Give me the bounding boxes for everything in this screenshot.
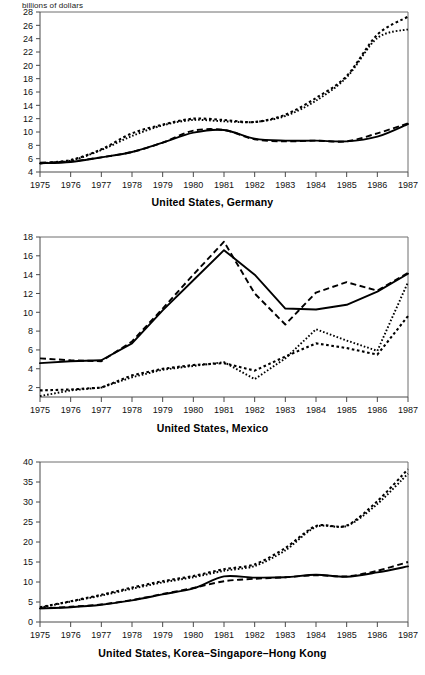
series-line-solid bbox=[40, 566, 408, 608]
y-tick-label: 8 bbox=[28, 326, 33, 336]
x-tick-label: 1983 bbox=[275, 630, 295, 640]
y-tick-label: 14 bbox=[23, 101, 33, 111]
x-tick-label: 1975 bbox=[30, 180, 50, 190]
x-tick-label: 1979 bbox=[153, 180, 173, 190]
y-tick-label: 40 bbox=[23, 457, 33, 467]
series-group bbox=[40, 242, 408, 396]
x-tick-label: 1985 bbox=[337, 630, 357, 640]
y-tick-label: 0 bbox=[28, 617, 33, 627]
y-axis: 46810121416182022242628 bbox=[23, 7, 40, 177]
chart-title-1: United States, Mexico bbox=[0, 422, 425, 434]
chart-svg-1: 2468101214161819751976197719781979198019… bbox=[0, 225, 425, 425]
series-line-dotted-fine bbox=[40, 474, 408, 608]
series-line-solid bbox=[40, 250, 408, 363]
x-tick-label: 1977 bbox=[91, 630, 111, 640]
y-tick-label: 20 bbox=[23, 61, 33, 71]
x-tick-label: 1979 bbox=[153, 405, 173, 415]
y-tick-label: 20 bbox=[23, 537, 33, 547]
x-tick-label: 1982 bbox=[245, 405, 265, 415]
y-tick-label: 15 bbox=[23, 557, 33, 567]
x-tick-label: 1981 bbox=[214, 405, 234, 415]
x-tick-label: 1986 bbox=[367, 405, 387, 415]
y-tick-label: 16 bbox=[23, 251, 33, 261]
plot-frame bbox=[40, 462, 408, 622]
y-tick-label: 4 bbox=[28, 364, 33, 374]
y-tick-label: 26 bbox=[23, 21, 33, 31]
x-tick-label: 1982 bbox=[245, 180, 265, 190]
y-tick-label: 18 bbox=[23, 74, 33, 84]
x-tick-label: 1977 bbox=[91, 405, 111, 415]
x-tick-label: 1979 bbox=[153, 630, 173, 640]
y-tick-label: 12 bbox=[23, 114, 33, 124]
x-tick-label: 1984 bbox=[306, 405, 326, 415]
series-line-dotted-coarse bbox=[40, 316, 408, 390]
chart-title-2: United States, Korea–Singapore–Hong Kong bbox=[0, 647, 425, 659]
x-tick-label: 1987 bbox=[398, 630, 418, 640]
x-tick-label: 1976 bbox=[61, 630, 81, 640]
x-tick-label: 1978 bbox=[122, 630, 142, 640]
y-tick-label: 22 bbox=[23, 47, 33, 57]
y-tick-label: 10 bbox=[23, 127, 33, 137]
x-tick-label: 1980 bbox=[183, 180, 203, 190]
y-tick-label: 25 bbox=[23, 517, 33, 527]
x-axis: 1975197619771978197919801981198219831984… bbox=[30, 172, 418, 190]
x-tick-label: 1982 bbox=[245, 630, 265, 640]
x-tick-label: 1976 bbox=[61, 405, 81, 415]
series-line-solid bbox=[40, 124, 408, 163]
x-axis: 1975197619771978197919801981198219831984… bbox=[30, 397, 418, 415]
plot-frame bbox=[40, 237, 408, 397]
y-tick-label: 16 bbox=[23, 87, 33, 97]
x-tick-label: 1980 bbox=[183, 630, 203, 640]
y-tick-label: 10 bbox=[23, 308, 33, 318]
x-axis: 1975197619771978197919801981198219831984… bbox=[30, 622, 418, 640]
x-tick-label: 1984 bbox=[306, 180, 326, 190]
x-tick-label: 1983 bbox=[275, 405, 295, 415]
chart-svg-2: 0510152025303540197519761977197819791980… bbox=[0, 450, 425, 650]
chart-title-0: United States, Germany bbox=[0, 196, 425, 208]
y-tick-label: 10 bbox=[23, 577, 33, 587]
x-tick-label: 1985 bbox=[337, 180, 357, 190]
y-tick-label: 6 bbox=[28, 154, 33, 164]
y-tick-label: 28 bbox=[23, 7, 33, 17]
x-tick-label: 1978 bbox=[122, 405, 142, 415]
y-axis: 0510152025303540 bbox=[23, 457, 40, 627]
chart-panel-united-states-mexico: 2468101214161819751976197719781979198019… bbox=[0, 225, 425, 450]
y-tick-label: 24 bbox=[23, 34, 33, 44]
y-tick-label: 30 bbox=[23, 497, 33, 507]
x-tick-label: 1986 bbox=[367, 630, 387, 640]
plot-frame bbox=[40, 12, 408, 172]
series-line-dotted-fine bbox=[40, 282, 408, 396]
chart-panel-united-states-korea-singapore-hong-kong: 0510152025303540197519761977197819791980… bbox=[0, 450, 425, 675]
y-tick-label: 4 bbox=[28, 167, 33, 177]
x-tick-label: 1975 bbox=[30, 405, 50, 415]
y-tick-label: 6 bbox=[28, 345, 33, 355]
x-tick-label: 1981 bbox=[214, 630, 234, 640]
chart-panel-united-states-germany: 4681012141618202224262819751976197719781… bbox=[0, 0, 425, 225]
series-line-dotted-coarse bbox=[40, 469, 408, 607]
y-tick-label: 14 bbox=[23, 270, 33, 280]
x-tick-label: 1976 bbox=[61, 180, 81, 190]
y-tick-label: 5 bbox=[28, 597, 33, 607]
x-tick-label: 1978 bbox=[122, 180, 142, 190]
y-tick-label: 35 bbox=[23, 477, 33, 487]
x-tick-label: 1981 bbox=[214, 180, 234, 190]
series-line-dotted-fine bbox=[40, 29, 408, 163]
x-tick-label: 1987 bbox=[398, 405, 418, 415]
y-tick-label: 12 bbox=[23, 289, 33, 299]
y-tick-label: 8 bbox=[28, 141, 33, 151]
chart-svg-0: 4681012141618202224262819751976197719781… bbox=[0, 0, 425, 200]
y-tick-label: 18 bbox=[23, 232, 33, 242]
x-tick-label: 1985 bbox=[337, 405, 357, 415]
y-axis: 24681012141618 bbox=[23, 232, 40, 397]
x-tick-label: 1980 bbox=[183, 405, 203, 415]
x-tick-label: 1975 bbox=[30, 630, 50, 640]
x-tick-label: 1977 bbox=[91, 180, 111, 190]
x-tick-label: 1986 bbox=[367, 180, 387, 190]
x-tick-label: 1983 bbox=[275, 180, 295, 190]
series-group bbox=[40, 469, 408, 608]
figure-page: billions of dollars 46810121416182022242… bbox=[0, 0, 425, 675]
x-tick-label: 1987 bbox=[398, 180, 418, 190]
x-tick-label: 1984 bbox=[306, 630, 326, 640]
series-group bbox=[40, 17, 408, 164]
y-tick-label: 2 bbox=[28, 383, 33, 393]
